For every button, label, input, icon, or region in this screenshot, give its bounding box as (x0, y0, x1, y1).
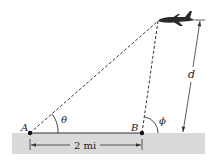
sight-line-a (30, 21, 158, 133)
phi-arc (145, 117, 158, 133)
height-label: d (188, 68, 195, 81)
height-line-top (193, 21, 200, 67)
sight-line-b (142, 21, 158, 133)
ground (12, 133, 205, 154)
theta-arc (52, 114, 58, 133)
height-line-bottom (183, 82, 191, 132)
theta-label: θ (61, 114, 67, 125)
point-b (140, 131, 144, 135)
phi-label: ϕ (159, 115, 166, 126)
airplane-triangulation-diagram: A B θ ϕ 2 mi d (0, 0, 212, 160)
height-arrow-top (198, 21, 202, 27)
point-b-label: B (130, 122, 138, 133)
point-a-label: A (20, 122, 28, 133)
airplane-icon (158, 11, 195, 26)
point-a (28, 131, 32, 135)
base-distance-label: 2 mi (74, 140, 96, 151)
